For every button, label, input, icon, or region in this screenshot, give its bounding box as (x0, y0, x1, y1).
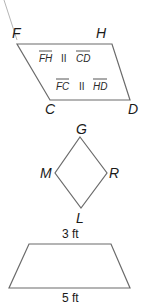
vertex-label-r: R (109, 165, 119, 181)
segment-hd: HD (93, 81, 107, 92)
vertex-label-f: F (12, 25, 22, 41)
parallel-symbol: II (79, 81, 85, 92)
vertex-label-c: C (45, 101, 56, 117)
rhombus-grlm (55, 137, 107, 208)
vertex-label-l: L (76, 210, 84, 226)
relation-fc-parallel-hd: FC II HD (56, 79, 107, 92)
trapezoid (9, 244, 130, 288)
parallelogram-fhdc (17, 44, 130, 100)
vertex-label-d: D (128, 101, 138, 117)
trapezoid-top-length: 3 ft (62, 227, 79, 241)
geometry-diagram: F H C D FH II CD FC II HD G M R L 3 ft 5… (0, 0, 149, 308)
trapezoid-bottom-length: 5 ft (62, 291, 79, 305)
vertex-label-g: G (76, 121, 87, 137)
segment-fh: FH (39, 53, 53, 64)
vertex-label-m: M (40, 165, 52, 181)
vertex-label-h: H (96, 25, 107, 41)
segment-cd: CD (76, 53, 90, 64)
segment-fc: FC (56, 81, 70, 92)
relation-fh-parallel-cd: FH II CD (39, 51, 90, 64)
parallel-symbol: II (61, 53, 67, 64)
